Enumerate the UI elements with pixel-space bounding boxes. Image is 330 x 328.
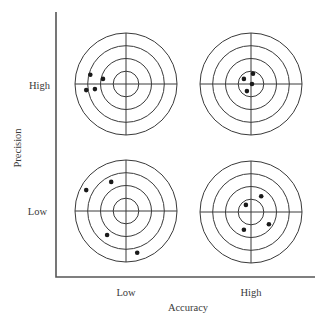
targets-group — [75, 33, 302, 263]
shot-mark — [84, 188, 89, 193]
y-tick-low: Low — [28, 206, 48, 217]
x-tick-high: High — [241, 287, 263, 298]
shot-mark — [101, 77, 106, 82]
axes-frame — [56, 12, 315, 277]
x-axis-label: Accuracy — [168, 302, 209, 313]
shot-mark — [135, 251, 140, 256]
shot-mark — [105, 233, 110, 238]
shot-mark — [251, 72, 256, 77]
shot-mark — [244, 203, 249, 208]
shot-mark — [109, 180, 114, 185]
shot-mark — [242, 77, 247, 82]
shot-mark — [259, 194, 264, 199]
shot-mark — [84, 88, 89, 93]
target-high-precision-low-accuracy — [75, 33, 177, 135]
shot-mark — [242, 228, 247, 233]
target-low-precision-high-accuracy — [200, 161, 302, 263]
shot-mark — [267, 222, 272, 227]
shot-mark — [250, 82, 255, 87]
shot-mark — [88, 73, 93, 78]
target-low-precision-low-accuracy — [75, 160, 177, 262]
y-axis-label: Precision — [12, 128, 23, 168]
target-high-precision-high-accuracy — [200, 33, 302, 135]
x-tick-low: Low — [116, 287, 136, 298]
shot-mark — [245, 89, 250, 94]
accuracy-precision-diagram: High Low Precision Low High Accuracy — [0, 0, 330, 328]
y-tick-high: High — [29, 80, 51, 91]
shot-mark — [93, 87, 98, 92]
